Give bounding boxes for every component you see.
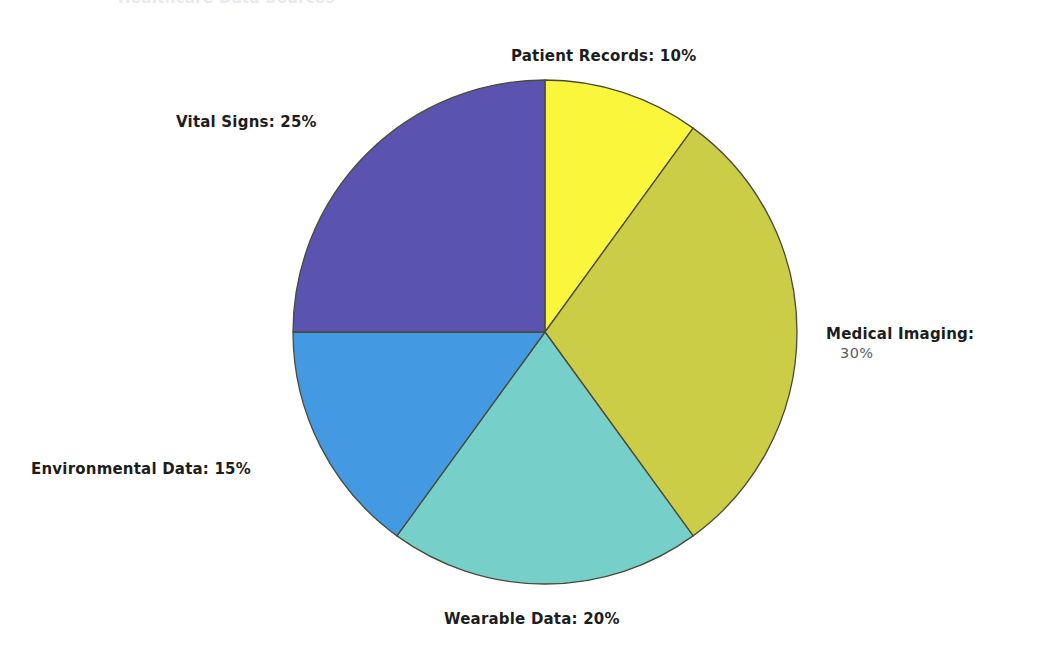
- pie-slice-vital-signs[interactable]: [293, 80, 545, 332]
- slice-label-environmental-data: Environmental Data: 15%: [31, 459, 251, 479]
- chart-canvas: Healthcare Data Sources Patient Records:…: [0, 0, 1039, 662]
- slice-label-medical-imaging: Medical Imaging: 30%: [826, 324, 986, 364]
- slice-label-medical-imaging-line2: 30%: [826, 344, 986, 364]
- slice-label-medical-imaging-line1: Medical Imaging:: [826, 325, 974, 343]
- slice-label-wearable-data: Wearable Data: 20%: [444, 609, 620, 629]
- slice-label-vital-signs: Vital Signs: 25%: [176, 112, 317, 132]
- slice-label-patient-records: Patient Records: 10%: [511, 46, 696, 66]
- pie-slices-group: [293, 80, 797, 584]
